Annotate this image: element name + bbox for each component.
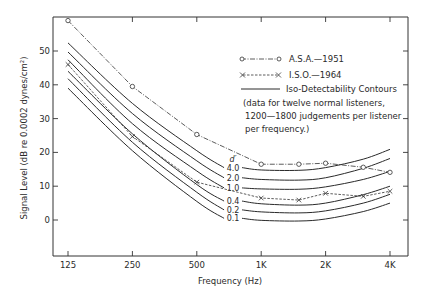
x-axis: 1252505001K2K4K: [60, 17, 396, 270]
asa-circle-marker-icon: [361, 165, 365, 169]
contour-label: 1.0: [227, 184, 240, 193]
asa-circle-marker-icon: [323, 161, 327, 165]
legend: A.S.A.—1951 I.S.O.—1964 Iso-Detectabilit…: [240, 54, 402, 134]
y-tick-label: 30: [39, 114, 50, 124]
y-tick-label: 0: [45, 215, 50, 225]
y-tick-label: 50: [39, 46, 50, 56]
legend-asa-label: A.S.A.—1951: [289, 54, 344, 64]
iso-x-marker-icon: [130, 134, 135, 139]
x-tick-label: 250: [124, 260, 140, 270]
contour-line-0-2: [68, 79, 224, 210]
asa-circle-marker-icon: [195, 132, 199, 136]
asa-1951-line: [68, 21, 390, 173]
x-tick-label: 4K: [385, 260, 396, 270]
iso-detectability-contours: 4.02.01.00.40.20.1d′: [68, 43, 390, 223]
contour-label: 4.0: [227, 164, 240, 173]
asa-circle-marker-icon: [130, 84, 134, 88]
asa-circle-marker-icon: [259, 162, 263, 166]
x-tick-label: 2K: [320, 260, 331, 270]
contour-line-2-0: [68, 52, 224, 178]
legend-note-line-2: 1200—1800 judgements per listener: [245, 111, 402, 121]
asa-circle-marker-icon: [66, 18, 70, 22]
x-tick-label: 125: [60, 260, 76, 270]
iso-x-marker-icon: [388, 189, 393, 194]
legend-note-line-1: (data for twelve normal listeners,: [243, 98, 385, 108]
legend-note-line-3: per frequency.): [245, 124, 309, 134]
y-axis: 01020304050: [39, 46, 408, 225]
asa-circle-marker-icon: [388, 170, 392, 174]
contour-label: 0.4: [227, 197, 240, 206]
y-tick-label: 40: [39, 80, 50, 90]
y-axis-title: Signal Level (dB re 0.0002 dynes/cm²): [19, 57, 29, 220]
x-tick-label: 1K: [256, 260, 267, 270]
asa-circle-marker-icon: [297, 162, 301, 166]
contour-line-0-4: [68, 71, 224, 201]
y-tick-label: 20: [39, 147, 50, 157]
legend-contour-label: Iso-Detectability Contours: [286, 84, 397, 94]
contour-label: 2.0: [227, 174, 240, 183]
legend-iso-label: I.S.O.—1964: [289, 70, 342, 80]
contour-header-dprime: d′: [230, 155, 237, 164]
legend-asa-circle-icon: [277, 57, 281, 61]
iso-x-marker-icon: [66, 62, 71, 67]
legend-asa-circle-icon: [240, 57, 244, 61]
contour-line-4-0: [68, 43, 224, 168]
x-axis-title: Frequency (Hz): [198, 276, 262, 286]
threshold-chart: 1252505001K2K4K 01020304050 4.02.01.00.4…: [0, 0, 430, 297]
x-tick-label: 500: [189, 260, 205, 270]
contour-line-1-0: [242, 171, 390, 189]
y-tick-label: 10: [39, 181, 50, 191]
contour-label: 0.1: [227, 214, 240, 223]
